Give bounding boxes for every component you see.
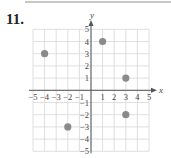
- y-tick-label: 1: [85, 73, 89, 83]
- data-point: [64, 123, 71, 130]
- data-point: [41, 50, 48, 57]
- y-tick-label: −3: [80, 122, 89, 132]
- y-tick-label: −1: [80, 98, 89, 108]
- y-tick-label: 5: [85, 24, 89, 34]
- data-point: [122, 111, 129, 118]
- x-tick-label: −3: [52, 92, 61, 102]
- y-tick-label: −5: [80, 146, 89, 156]
- y-axis-arrow-icon: [89, 20, 94, 26]
- x-tick-label: 2: [112, 92, 116, 102]
- y-tick-label: 3: [85, 49, 89, 59]
- x-tick-label: 4: [135, 92, 140, 102]
- x-tick-label: −4: [40, 92, 50, 102]
- data-point: [122, 75, 129, 82]
- x-tick-label: −5: [28, 92, 37, 102]
- x-tick-label: 5: [147, 92, 151, 102]
- coordinate-plane: xy−5−4−3−2−112345−5−4−3−2−112345: [0, 0, 171, 158]
- y-tick-label: −4: [80, 134, 90, 144]
- y-tick-label: −2: [80, 110, 89, 120]
- x-tick-label: −2: [63, 92, 72, 102]
- x-tick-label: 3: [124, 92, 128, 102]
- data-point: [99, 38, 106, 45]
- x-axis-label: x: [158, 85, 163, 95]
- x-axis-arrow-icon: [151, 88, 157, 93]
- y-tick-label: 2: [85, 61, 89, 71]
- x-tick-label: 1: [100, 92, 104, 102]
- y-axis-label: y: [89, 10, 94, 20]
